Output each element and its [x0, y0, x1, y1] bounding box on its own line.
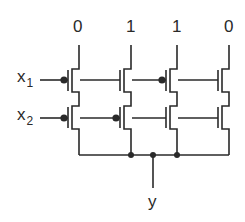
column-2-chain: [120, 45, 131, 155]
dot-r1-c1: [60, 76, 67, 83]
input-x1-name: x: [17, 67, 26, 86]
column-label-4: 0: [224, 18, 233, 35]
column-label-2: 1: [126, 18, 135, 35]
column-4-chain: [218, 45, 229, 155]
input-x1-subscript: 1: [27, 76, 34, 90]
circuit-schematic: [0, 0, 245, 222]
dot-r1-c3: [158, 76, 165, 83]
input-x2-subscript: 2: [27, 114, 34, 128]
junction-output: [150, 152, 156, 158]
column-label-3: 1: [172, 18, 181, 35]
junction-c2: [128, 152, 134, 158]
input-x2-name: x: [17, 105, 26, 124]
output-label-y: y: [148, 193, 157, 210]
dot-r2-c1: [60, 114, 67, 121]
column-label-1: 0: [73, 18, 82, 35]
input-label-x2: x2: [17, 106, 33, 123]
dot-r2-c2: [112, 114, 119, 121]
circuit-diagram: 0 1 1 0 x1 x2 y: [0, 0, 245, 222]
column-3-chain: [166, 45, 177, 155]
input-label-x1: x1: [17, 68, 33, 85]
junction-c3: [174, 152, 180, 158]
column-1-chain: [68, 45, 79, 155]
